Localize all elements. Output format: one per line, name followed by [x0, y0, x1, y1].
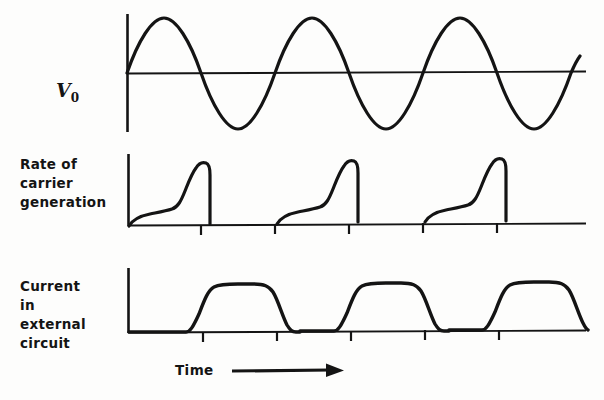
panel-external-current — [128, 268, 588, 342]
voltage-x-axis — [127, 72, 586, 74]
current-pulse — [449, 282, 588, 330]
generation-pulse — [425, 159, 506, 222]
current-x-axis — [128, 331, 586, 333]
current-pulse — [129, 284, 300, 332]
generation-x-axis — [128, 224, 586, 226]
panel-label-carrier-generation: Rate of carrier generation — [20, 155, 106, 212]
generation-pulse — [129, 163, 210, 226]
generation-pulse — [277, 161, 358, 224]
current-pulse — [300, 283, 449, 331]
panel-carrier-generation — [128, 154, 586, 235]
panel-label-external-current: Current in external circuit — [20, 277, 86, 353]
time-arrow-icon — [232, 364, 344, 378]
voltage-symbol: V — [56, 79, 71, 101]
panel-label-voltage: V0 — [56, 62, 79, 108]
axis-label-time: Time — [175, 362, 214, 378]
voltage-subscript: 0 — [71, 91, 79, 105]
panel-voltage — [127, 14, 586, 132]
